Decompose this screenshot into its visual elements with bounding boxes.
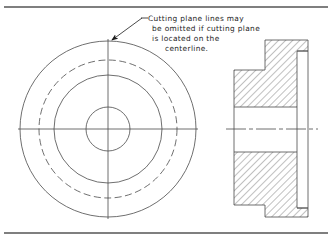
technical-drawing-canvas: Cutting plane lines may be omitted if cu… xyxy=(0,0,332,241)
drawing-page: Cutting plane lines may be omitted if cu… xyxy=(0,0,332,241)
note-line-1: Cutting plane lines may xyxy=(148,14,244,23)
note-line-3: is located on the xyxy=(152,34,220,43)
note-line-2: be omitted if cutting plane xyxy=(152,24,260,33)
note-line-4: centerline. xyxy=(165,44,208,53)
